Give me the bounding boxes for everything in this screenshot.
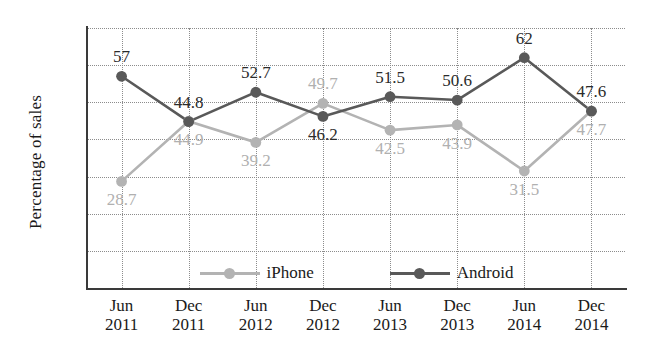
data-point-marker [250,87,261,98]
data-label: 42.5 [375,139,405,159]
legend-item-iphone[interactable]: iPhone [200,263,314,283]
legend-swatch-iphone [200,267,260,279]
legend-item-android[interactable]: Android [390,263,514,283]
data-point-marker [385,125,396,136]
data-label: 47.7 [577,120,607,140]
data-label: 57 [113,47,130,67]
data-label: 44.9 [174,130,204,150]
data-label: 31.5 [509,180,539,200]
data-label: 46.2 [308,125,338,145]
data-point-marker [116,176,127,187]
data-point-marker [183,116,194,127]
data-point-marker [318,111,329,122]
line-chart: Percentage of sales 706050403020100 Jun2… [0,0,647,350]
legend-swatch-android [390,267,450,279]
data-point-marker [519,52,530,63]
data-label: 50.6 [442,71,472,91]
chart-legend: iPhone Android [88,258,625,288]
legend-label-android: Android [457,263,514,283]
data-label: 49.7 [308,74,338,94]
data-point-marker [586,106,597,117]
series-lines [0,0,647,350]
data-label: 52.7 [241,63,271,83]
data-label: 43.9 [442,134,472,154]
legend-label-iphone: iPhone [267,263,314,283]
data-point-marker [519,166,530,177]
data-label: 44.8 [174,93,204,113]
data-point-marker [385,91,396,102]
data-point-marker [318,98,329,109]
data-point-marker [452,95,463,106]
data-point-marker [452,120,463,131]
data-label: 47.6 [577,82,607,102]
data-label: 28.7 [107,190,137,210]
data-point-marker [116,71,127,82]
data-point-marker [250,137,261,148]
data-label: 39.2 [241,151,271,171]
data-label: 62 [516,29,533,49]
data-label: 51.5 [375,68,405,88]
